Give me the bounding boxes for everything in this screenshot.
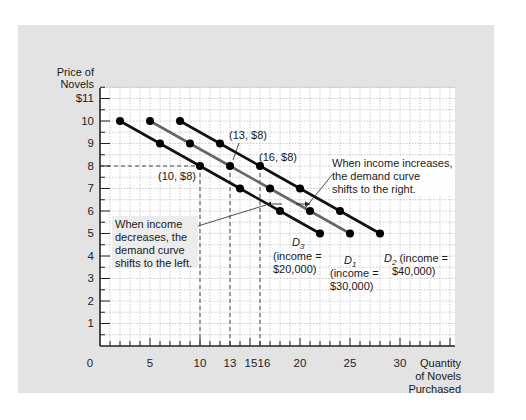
- chart-panel: $11 10 9 8 7 6 5 4 3 2 1 Price of Novels…: [18, 25, 494, 393]
- y-axis-title-line1: Price of: [57, 66, 95, 78]
- x-tick-13: 13: [224, 357, 237, 369]
- x-tick-10: 10: [194, 357, 207, 369]
- x-tick-labels: 0 5 10 13 15 16 20 25 30: [87, 357, 407, 369]
- svg-text:$30,000): $30,000): [330, 280, 373, 292]
- data-point: [316, 230, 324, 238]
- data-point: [306, 207, 314, 215]
- y-tick-10: 10: [81, 115, 94, 127]
- data-point: [226, 162, 234, 170]
- x-tick-30: 30: [394, 357, 407, 369]
- y-tick-3: 3: [88, 272, 94, 284]
- decrease-note-line2: decreases, the: [115, 231, 187, 243]
- data-point: [156, 140, 164, 148]
- data-point: [116, 117, 124, 125]
- x-axis-title-line1: Quantity: [420, 357, 461, 369]
- y-tick-7: 7: [88, 182, 94, 194]
- x-tick-15: 15: [245, 357, 258, 369]
- svg-text:(income =: (income =: [330, 267, 379, 279]
- data-point: [256, 162, 264, 170]
- increase-note-line1: When income increases,: [332, 157, 452, 169]
- y-tick-8: 8: [88, 160, 94, 172]
- data-point: [216, 140, 224, 148]
- y-tick-2: 2: [88, 295, 94, 307]
- x-axis-title-line3: Purchased: [408, 383, 461, 393]
- x-tick-20: 20: [294, 357, 307, 369]
- y-axis-title-line2: Novels: [60, 78, 94, 90]
- y-tick-1: 1: [88, 317, 94, 329]
- svg-text:(income =: (income =: [273, 250, 322, 262]
- y-tick-11: $11: [76, 92, 94, 104]
- y-tick-4: 4: [88, 250, 95, 262]
- y-tick-labels: $11 10 9 8 7 6 5 4 3 2 1: [76, 92, 95, 329]
- data-point: [376, 230, 384, 238]
- x-tick-25: 25: [344, 357, 357, 369]
- increase-note-line3: shifts to the right.: [332, 183, 416, 195]
- decrease-note-line4: shifts to the left.: [115, 257, 192, 269]
- y-tick-6: 6: [88, 205, 94, 217]
- data-point: [346, 230, 354, 238]
- svg-text:$40,000): $40,000): [392, 265, 435, 277]
- increase-note-line2: the demand curve: [332, 170, 420, 182]
- data-point: [266, 185, 274, 193]
- x-axis-title-line2: of Novels: [415, 370, 461, 382]
- data-point: [336, 207, 344, 215]
- data-point: [296, 185, 304, 193]
- data-point: [276, 207, 284, 215]
- data-point: [186, 140, 194, 148]
- x-tick-16: 16: [258, 357, 271, 369]
- data-point: [236, 185, 244, 193]
- decrease-note-line3: demand curve: [115, 244, 185, 256]
- label-point-10-8: (10, $8): [158, 170, 196, 182]
- y-tick-9: 9: [88, 137, 94, 149]
- label-point-13-8: (13, $8): [229, 129, 267, 141]
- data-point: [176, 117, 184, 125]
- data-point: [196, 162, 204, 170]
- data-point: [146, 117, 154, 125]
- x-tick-5: 5: [147, 357, 153, 369]
- svg-text:$20,000): $20,000): [273, 263, 316, 275]
- demand-shift-chart: $11 10 9 8 7 6 5 4 3 2 1 Price of Novels…: [18, 25, 494, 393]
- decrease-note-line1: When income: [115, 218, 182, 230]
- x-tick-0: 0: [87, 357, 93, 369]
- label-point-16-8: (16, $8): [259, 151, 297, 163]
- y-tick-5: 5: [88, 227, 94, 239]
